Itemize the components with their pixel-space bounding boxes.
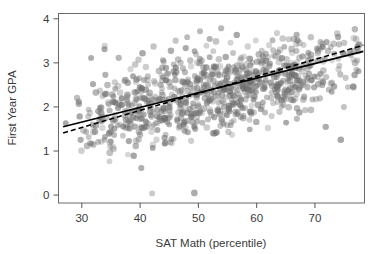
- scatter-point: [302, 107, 308, 113]
- scatter-point: [112, 79, 118, 85]
- scatter-point: [185, 79, 191, 85]
- scatter-point: [203, 124, 210, 131]
- scatter-point: [323, 124, 329, 130]
- scatter-point: [247, 126, 253, 132]
- scatter-point: [221, 100, 227, 106]
- x-tick-label: 70: [309, 212, 322, 224]
- scatter-point: [108, 138, 114, 144]
- scatter-point: [350, 84, 356, 90]
- scatter-point: [294, 116, 300, 122]
- scatter-point: [207, 36, 213, 42]
- scatter-point: [253, 38, 259, 44]
- y-tick-label: 0: [43, 189, 49, 201]
- scatter-point: [242, 105, 248, 111]
- scatter-point: [200, 64, 207, 71]
- scatter-point: [158, 82, 164, 88]
- scatter-point: [250, 87, 257, 94]
- scatter-point: [253, 119, 259, 125]
- scatter-point: [278, 97, 285, 104]
- scatter-plot-figure: 304050607001234SAT Math (percentile)Firs…: [0, 0, 379, 254]
- scatter-point: [200, 120, 206, 126]
- scatter-point: [115, 100, 122, 107]
- scatter-point: [286, 93, 292, 99]
- scatter-point: [341, 104, 347, 110]
- scatter-point: [304, 76, 310, 82]
- x-tick-label: 60: [250, 212, 263, 224]
- scatter-point: [130, 73, 136, 79]
- scatter-point: [102, 134, 108, 140]
- scatter-point: [320, 44, 326, 50]
- scatter-point: [269, 90, 275, 96]
- scatter-point: [280, 78, 286, 84]
- scatter-point: [195, 77, 201, 83]
- scatter-point: [78, 147, 85, 154]
- scatter-point: [137, 132, 143, 138]
- scatter-point: [141, 77, 147, 83]
- scatter-point: [151, 122, 157, 128]
- scatter-point: [206, 106, 213, 113]
- scatter-point: [172, 77, 178, 83]
- scatter-point: [101, 43, 107, 49]
- scatter-point: [225, 106, 231, 112]
- scatter-point: [147, 108, 154, 115]
- scatter-point: [214, 71, 221, 78]
- scatter-point: [125, 152, 131, 158]
- scatter-point: [335, 66, 341, 72]
- scatter-point: [88, 55, 94, 61]
- scatter-point: [281, 44, 287, 50]
- scatter-point: [203, 82, 209, 88]
- scatter-point: [187, 57, 193, 63]
- scatter-point: [133, 115, 139, 121]
- scatter-point: [283, 120, 289, 126]
- scatter-point: [152, 94, 158, 100]
- scatter-point: [177, 88, 184, 95]
- scatter-point: [266, 42, 272, 48]
- scatter-point: [214, 107, 220, 113]
- scatter-point: [245, 43, 251, 49]
- scatter-point: [111, 132, 117, 138]
- scatter-point: [204, 100, 210, 106]
- scatter-point: [143, 64, 149, 70]
- scatter-point: [247, 117, 253, 123]
- scatter-point: [279, 35, 286, 42]
- scatter-point: [246, 70, 252, 76]
- scatter-point: [99, 125, 105, 131]
- scatter-point: [274, 30, 280, 36]
- scatter-point: [219, 92, 226, 99]
- scatter-point: [276, 109, 282, 115]
- scatter-point: [304, 84, 310, 90]
- scatter-point: [227, 69, 234, 76]
- scatter-point: [162, 141, 168, 147]
- y-tick-label: 3: [43, 57, 49, 69]
- scatter-point: [205, 76, 212, 83]
- scatter-point: [177, 102, 183, 108]
- scatter-point: [248, 82, 254, 88]
- scatter-point: [270, 37, 276, 43]
- scatter-point: [269, 113, 275, 119]
- scatter-point: [247, 56, 253, 62]
- scatter-point: [173, 38, 179, 44]
- scatter-point: [218, 25, 224, 31]
- y-axis-title: First Year GPA: [6, 70, 18, 146]
- scatter-point: [163, 77, 169, 83]
- scatter-point: [323, 39, 329, 45]
- scatter-point: [195, 103, 201, 109]
- scatter-point: [236, 91, 242, 97]
- scatter-point: [208, 93, 214, 99]
- scatter-point: [103, 91, 109, 97]
- scatter-point: [191, 111, 197, 117]
- scatter-point: [317, 71, 323, 77]
- scatter-point: [338, 136, 345, 143]
- scatter-point: [353, 67, 359, 73]
- scatter-point: [130, 153, 136, 159]
- scatter-point: [265, 125, 271, 131]
- scatter-point: [107, 107, 113, 113]
- scatter-point: [251, 94, 258, 101]
- scatter-point: [198, 58, 204, 64]
- scatter-point: [188, 138, 194, 144]
- scatter-point: [224, 122, 230, 128]
- scatter-point: [194, 118, 200, 124]
- scatter-point: [124, 97, 130, 103]
- scatter-point: [237, 102, 243, 108]
- scatter-point: [343, 75, 349, 81]
